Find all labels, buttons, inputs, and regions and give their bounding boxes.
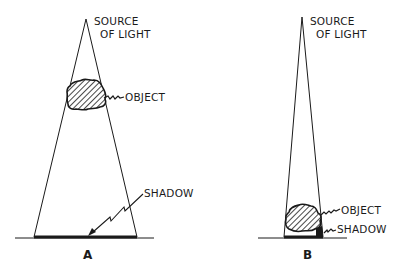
object-label-a: OBJECT: [125, 91, 166, 103]
object-leader-b: [321, 209, 340, 215]
shadow-label-a: SHADOW: [144, 187, 194, 199]
shadow-label-b: SHADOW: [337, 223, 387, 235]
light-ray-left-a: [34, 19, 86, 237]
shadow-a: [34, 236, 137, 239]
object-leader-a: [104, 96, 124, 99]
source-label-a-line1: SOURCE: [94, 15, 139, 27]
light-shadow-diagram: OBJECT SOURCE OF LIGHT SHADOW A OBJECT S…: [0, 0, 397, 268]
source-label-a-line2: OF LIGHT: [100, 28, 151, 40]
panel-a: OBJECT SOURCE OF LIGHT SHADOW A: [15, 15, 194, 262]
shadow-leader-a: [93, 194, 143, 232]
shadow-arrowhead-a: [88, 228, 96, 236]
panel-b: OBJECT SHADOW SOURCE OF LIGHT B: [258, 15, 387, 262]
object-label-b: OBJECT: [341, 204, 382, 216]
caption-b: B: [303, 248, 312, 262]
object-a: [67, 79, 106, 110]
object-b: [286, 204, 321, 231]
caption-a: A: [83, 248, 93, 262]
light-ray-right-a: [86, 19, 137, 237]
shadow-leader-b: [324, 229, 336, 233]
source-label-b-line1: SOURCE: [310, 15, 355, 27]
source-label-b-line2: OF LIGHT: [316, 28, 367, 40]
